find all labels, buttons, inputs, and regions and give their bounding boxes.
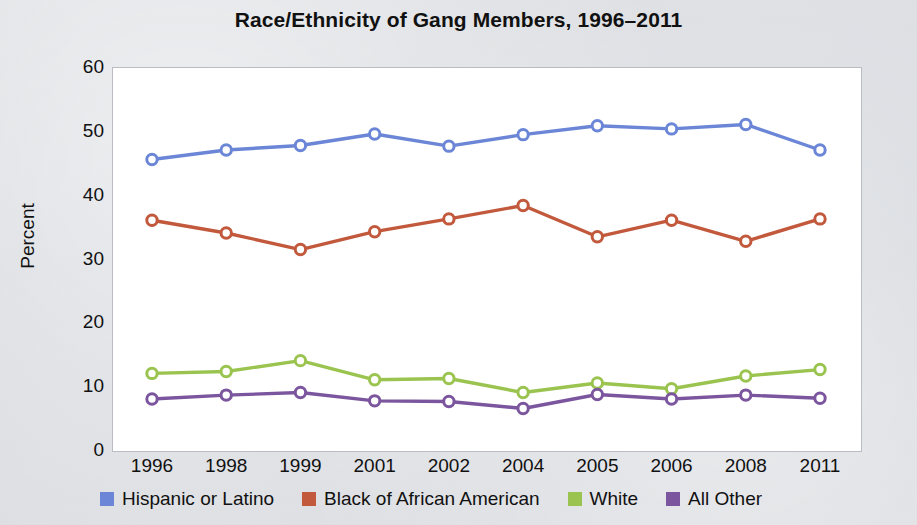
data-point-marker bbox=[147, 368, 157, 378]
data-point-marker bbox=[295, 387, 305, 397]
data-point-marker bbox=[741, 236, 751, 246]
chart-series-layer bbox=[112, 67, 860, 450]
x-tick-label: 1998 bbox=[191, 455, 261, 477]
series-white bbox=[147, 355, 825, 397]
data-point-marker bbox=[221, 228, 231, 238]
data-point-marker bbox=[295, 244, 305, 254]
data-point-marker bbox=[666, 215, 676, 225]
series-line bbox=[152, 124, 820, 159]
series-black-of-african-american bbox=[147, 200, 825, 254]
x-tick-label: 2011 bbox=[785, 455, 855, 477]
y-tick-label: 20 bbox=[60, 311, 104, 333]
data-point-marker bbox=[518, 129, 528, 139]
chart-title: Race/Ethnicity of Gang Members, 1996–201… bbox=[0, 8, 917, 32]
data-point-marker bbox=[815, 145, 825, 155]
data-point-marker bbox=[592, 121, 602, 131]
legend-label: White bbox=[590, 488, 639, 510]
y-axis-title: Percent bbox=[17, 186, 39, 286]
data-point-marker bbox=[518, 387, 528, 397]
data-point-marker bbox=[815, 393, 825, 403]
data-point-marker bbox=[369, 375, 379, 385]
y-tick-label: 40 bbox=[60, 184, 104, 206]
y-axis-tick-labels: 0102030405060 bbox=[52, 0, 104, 525]
data-point-marker bbox=[221, 390, 231, 400]
data-point-marker bbox=[666, 394, 676, 404]
legend-item[interactable]: Black of African American bbox=[302, 488, 539, 510]
data-point-marker bbox=[221, 145, 231, 155]
data-point-marker bbox=[815, 214, 825, 224]
legend-label: Black of African American bbox=[324, 488, 539, 510]
legend-item[interactable]: All Other bbox=[666, 488, 762, 510]
legend-label: Hispanic or Latino bbox=[122, 488, 274, 510]
data-point-marker bbox=[221, 366, 231, 376]
series-line bbox=[152, 393, 820, 409]
y-tick-label: 50 bbox=[60, 120, 104, 142]
data-point-marker bbox=[518, 403, 528, 413]
data-point-marker bbox=[295, 355, 305, 365]
y-tick-label: 0 bbox=[60, 439, 104, 461]
data-point-marker bbox=[147, 154, 157, 164]
legend-swatch-icon bbox=[302, 492, 316, 506]
data-point-marker bbox=[147, 394, 157, 404]
data-point-marker bbox=[815, 364, 825, 374]
data-point-marker bbox=[592, 389, 602, 399]
series-all-other bbox=[147, 387, 825, 413]
legend-swatch-icon bbox=[666, 492, 680, 506]
legend-label: All Other bbox=[688, 488, 762, 510]
x-tick-label: 2001 bbox=[340, 455, 410, 477]
data-point-marker bbox=[369, 396, 379, 406]
y-tick-label: 10 bbox=[60, 375, 104, 397]
data-point-marker bbox=[444, 373, 454, 383]
series-hispanic-or-latino bbox=[147, 119, 825, 165]
x-tick-label: 1999 bbox=[265, 455, 335, 477]
x-axis-tick-labels: 1996199819992001200220042005200620082011 bbox=[112, 455, 860, 483]
y-tick-label: 30 bbox=[60, 248, 104, 270]
y-tick-label: 60 bbox=[60, 56, 104, 78]
x-tick-label: 1996 bbox=[117, 455, 187, 477]
data-point-marker bbox=[444, 396, 454, 406]
x-tick-label: 2006 bbox=[637, 455, 707, 477]
data-point-marker bbox=[741, 371, 751, 381]
data-point-marker bbox=[518, 200, 528, 210]
data-point-marker bbox=[295, 140, 305, 150]
data-point-marker bbox=[741, 119, 751, 129]
legend-swatch-icon bbox=[568, 492, 582, 506]
legend-item[interactable]: Hispanic or Latino bbox=[100, 488, 274, 510]
data-point-marker bbox=[369, 129, 379, 139]
x-tick-label: 2002 bbox=[414, 455, 484, 477]
data-point-marker bbox=[741, 390, 751, 400]
x-tick-label: 2008 bbox=[711, 455, 781, 477]
series-line bbox=[152, 361, 820, 393]
legend-item[interactable]: White bbox=[568, 488, 639, 510]
legend-swatch-icon bbox=[100, 492, 114, 506]
data-point-marker bbox=[666, 124, 676, 134]
data-point-marker bbox=[369, 226, 379, 236]
data-point-marker bbox=[592, 378, 602, 388]
chart-legend: Hispanic or LatinoBlack of African Ameri… bbox=[100, 486, 840, 512]
data-point-marker bbox=[444, 141, 454, 151]
series-line bbox=[152, 206, 820, 250]
x-tick-label: 2004 bbox=[488, 455, 558, 477]
data-point-marker bbox=[592, 232, 602, 242]
data-point-marker bbox=[147, 215, 157, 225]
x-tick-label: 2005 bbox=[562, 455, 632, 477]
data-point-marker bbox=[444, 214, 454, 224]
